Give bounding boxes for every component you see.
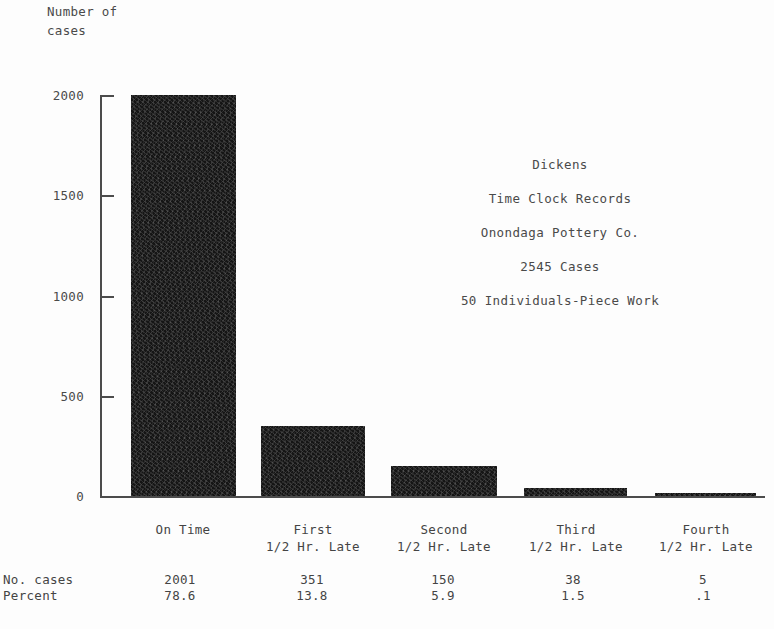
row-label-no-cases: No. cases	[3, 572, 73, 588]
cell-no-cases-third: 38	[533, 572, 613, 588]
table-row-no-cases: No. cases 2001 351 150 38 5	[0, 572, 774, 588]
cell-no-cases-second: 150	[403, 572, 483, 588]
x-label-fourth: Fourth 1/2 Hr. Late	[646, 521, 766, 555]
x-label-first: First 1/2 Hr. Late	[253, 521, 373, 555]
cell-percent-fourth: .1	[663, 588, 743, 604]
table-row-percent: Percent 78.6 13.8 5.9 1.5 .1	[0, 588, 774, 604]
x-label-on-time: On Time	[123, 521, 243, 538]
y-tick-1000	[100, 296, 114, 298]
y-tick-label-0: 0	[20, 489, 84, 504]
y-tick-2000	[100, 95, 114, 97]
x-label-third: Third 1/2 Hr. Late	[516, 521, 636, 555]
annotation-line-2: Time Clock Records	[424, 191, 696, 225]
y-tick-label-500: 500	[20, 389, 84, 404]
cell-percent-second: 5.9	[403, 588, 483, 604]
annotation-line-3: Onondaga Pottery Co.	[424, 225, 696, 259]
cell-percent-on-time: 78.6	[140, 588, 220, 604]
x-axis-line	[100, 496, 765, 498]
y-tick-1500	[100, 195, 114, 197]
y-tick-label-1500: 1500	[20, 188, 84, 203]
bar-on-time	[131, 95, 236, 497]
data-table: No. cases 2001 351 150 38 5 Percent 78.6…	[0, 572, 774, 604]
bar-third-half-hour-late	[524, 488, 627, 496]
y-tick-label-1000: 1000	[20, 289, 84, 304]
y-tick-label-2000: 2000	[20, 88, 84, 103]
x-label-second: Second 1/2 Hr. Late	[384, 521, 504, 555]
cell-no-cases-fourth: 5	[663, 572, 743, 588]
chart-annotation-block: Dickens Time Clock Records Onondaga Pott…	[424, 157, 696, 327]
annotation-line-5: 50 Individuals-Piece Work	[424, 293, 696, 327]
y-tick-500	[100, 396, 114, 398]
cell-percent-third: 1.5	[533, 588, 613, 604]
cell-no-cases-first: 351	[272, 572, 352, 588]
chart-page: Number of cases 2000 1500 1000 500 0 On …	[0, 0, 774, 629]
row-label-percent: Percent	[3, 588, 58, 604]
annotation-line-1: Dickens	[424, 157, 696, 191]
bar-second-half-hour-late	[391, 466, 497, 496]
cell-percent-first: 13.8	[272, 588, 352, 604]
y-tick-0	[100, 496, 114, 498]
annotation-line-4: 2545 Cases	[424, 259, 696, 293]
cell-no-cases-on-time: 2001	[140, 572, 220, 588]
bar-fourth-half-hour-late	[655, 493, 756, 496]
bar-first-half-hour-late	[261, 426, 365, 497]
